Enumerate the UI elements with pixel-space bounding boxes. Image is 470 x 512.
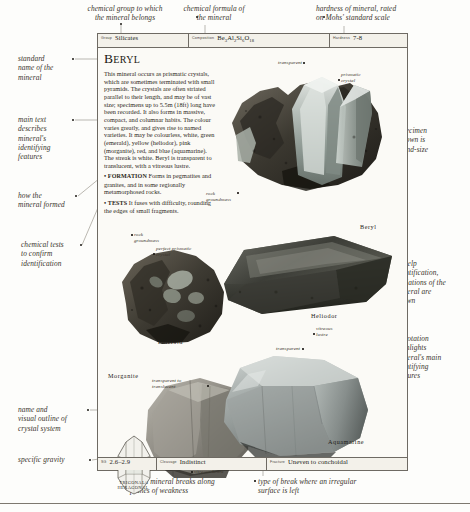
field-cleavage-value: Indistinct	[180, 458, 206, 465]
anno-rock-groundmass-emerald-dot	[131, 234, 133, 236]
body-formation: • FORMATION Forms in pegmatites and gran…	[104, 172, 218, 196]
callout-hardness-text: hardness of mineral, rated on Mohs' stan…	[316, 4, 396, 22]
field-fracture-value: Uneven to conchoidal	[288, 458, 348, 465]
anno-transparent-translucent-dot	[207, 385, 209, 387]
callout-fracture: type of break where an irregular surface…	[258, 477, 392, 496]
callout-chemical-group-dot	[120, 23, 122, 25]
caption-emerald: Emerald	[158, 338, 183, 345]
field-sg-label: SG	[101, 460, 107, 464]
callout-how-formed-text: how the mineral formed	[18, 191, 65, 209]
caption-heliodor-text: Heliodor	[311, 312, 337, 319]
anno-perfect-prismatic-crystal-dot	[153, 253, 155, 255]
field-group-label: Group	[101, 36, 112, 40]
anno-rock-groundmass-emerald-text: rock groundmass	[134, 232, 159, 243]
callout-specific-gravity: specific gravity	[18, 455, 92, 464]
crystal-system-label: TRIGONAL/ HEXAGONAL	[102, 480, 164, 491]
anno-transparent-heliodor: transparent	[256, 346, 300, 352]
anno-rock-groundmass-top-dot	[237, 192, 239, 194]
anno-rock-groundmass-emerald: rock groundmass	[134, 232, 174, 244]
callout-standard-name: standard name of the mineral	[18, 54, 80, 82]
page-title: BERYL	[104, 52, 218, 67]
body-formation-keyword: • FORMATION	[104, 173, 147, 179]
anno-rock-groundmass-top: rock groundmass	[206, 191, 246, 203]
callout-chemical-group-text: chemical group to which the mineral belo…	[88, 4, 163, 22]
callout-specimen-size: specimen shown is hand-size	[399, 126, 465, 154]
photo-heliodor-specimen	[216, 226, 401, 326]
specification-bar-bottom: SG 2.6–2.9 Cleavage Indistinct Fracture …	[98, 457, 407, 470]
field-composition: Composition Be3Al2Si6O18	[188, 34, 329, 47]
body-tests-keyword: • TESTS	[104, 200, 127, 206]
field-group-value: Silicates	[115, 34, 138, 41]
anno-transparent-top: transparent	[260, 60, 302, 66]
text-column: BERYL This mineral occurs as prismatic c…	[104, 52, 218, 215]
crystal-system-label-text: TRIGONAL/ HEXAGONAL	[117, 480, 148, 490]
mineral-page-plate: Group Silicates Composition Be3Al2Si6O18…	[97, 33, 408, 471]
anno-transparent-translucent: transparent to translucent	[152, 378, 206, 390]
callout-specific-gravity-text: specific gravity	[18, 455, 65, 464]
caption-aquamarine: Aquamarine	[328, 438, 364, 445]
callout-standard-name-text: standard name of the mineral	[18, 54, 53, 82]
field-composition-label: Composition	[192, 36, 214, 40]
body-tests: • TESTS It fuses with difficulty, roundi…	[104, 199, 218, 215]
caption-emerald-text: Emerald	[158, 338, 183, 345]
anno-transparent-top-text: transparent	[278, 60, 302, 65]
caption-morganite-text: Morganite	[108, 372, 139, 379]
anno-rock-groundmass-top-text: rock groundmass	[206, 191, 231, 202]
callout-chemical-tests-text: chemical tests to confirm identification	[21, 240, 64, 268]
callout-chemical-tests: chemical tests to confirm identification	[21, 240, 89, 268]
anno-perfect-prismatic-crystal-text: perfect prismatic crystal	[156, 246, 191, 257]
field-cleavage: Cleavage Indistinct	[156, 458, 266, 470]
body-main: This mineral occurs as prismatic crystal…	[104, 70, 218, 170]
callout-crystal-system: name and visual outline of crystal syste…	[18, 405, 92, 433]
callout-how-formed: how the mineral formed	[18, 191, 88, 210]
anno-vitreous-lustre-heliodor-text: vitreous lustre	[316, 326, 333, 337]
field-composition-value: Be3Al2Si6O18	[217, 34, 254, 43]
anno-vitreous-lustre-aquamarine-dot	[191, 471, 193, 473]
callout-fracture-text: type of break where an irregular surface…	[258, 477, 356, 495]
field-fracture-label: Fracture	[270, 460, 285, 464]
anno-prismatic-crystal-top-text: prismatic crystal	[341, 72, 361, 83]
field-sg: SG 2.6–2.9	[98, 458, 156, 470]
field-group: Group Silicates	[98, 34, 188, 47]
caption-aquamarine-text: Aquamarine	[328, 438, 364, 445]
callout-chemical-formula-text: chemical formula of the mineral	[183, 4, 244, 22]
caption-morganite: Morganite	[108, 372, 139, 379]
field-hardness-value: 7-8	[353, 34, 362, 41]
specification-bar-top: Group Silicates Composition Be3Al2Si6O18…	[98, 34, 407, 48]
field-hardness: Hardness 7-8	[329, 34, 407, 47]
photo-aquamarine-specimen	[218, 352, 378, 462]
field-cleavage-label: Cleavage	[160, 460, 177, 464]
caption-heliodor: Heliodor	[311, 312, 337, 319]
anno-vitreous-lustre-heliodor-dot	[313, 333, 315, 335]
field-hardness-label: Hardness	[333, 36, 350, 40]
anno-prismatic-crystal-top-dot	[338, 79, 340, 81]
callout-hardness: hardness of mineral, rated on Mohs' stan…	[316, 4, 468, 23]
callout-chemical-formula: chemical formula of the mineral	[155, 4, 273, 23]
anno-transparent-translucent-text: transparent to translucent	[152, 378, 181, 389]
anno-transparent-heliodor-text: transparent	[276, 346, 300, 351]
callout-main-text-text: main text describes mineral's identifyin…	[18, 115, 51, 161]
anno-transparent-heliodor-dot	[302, 348, 304, 350]
page-bottom-rule	[0, 503, 470, 504]
callout-crystal-system-text: name and visual outline of crystal syste…	[18, 405, 67, 433]
field-fracture: Fracture Uneven to conchoidal	[266, 458, 407, 470]
body-text: This mineral occurs as prismatic crystal…	[104, 70, 218, 215]
callout-main-text: main text describes mineral's identifyin…	[18, 115, 82, 161]
anno-transparent-top-dot	[303, 62, 305, 64]
anno-prismatic-crystal-top: prismatic crystal	[341, 72, 387, 84]
anno-vitreous-lustre-heliodor: vitreous lustre	[316, 326, 350, 338]
field-sg-value: 2.6–2.9	[110, 458, 130, 465]
anno-perfect-prismatic-crystal: perfect prismatic crystal	[156, 246, 212, 258]
